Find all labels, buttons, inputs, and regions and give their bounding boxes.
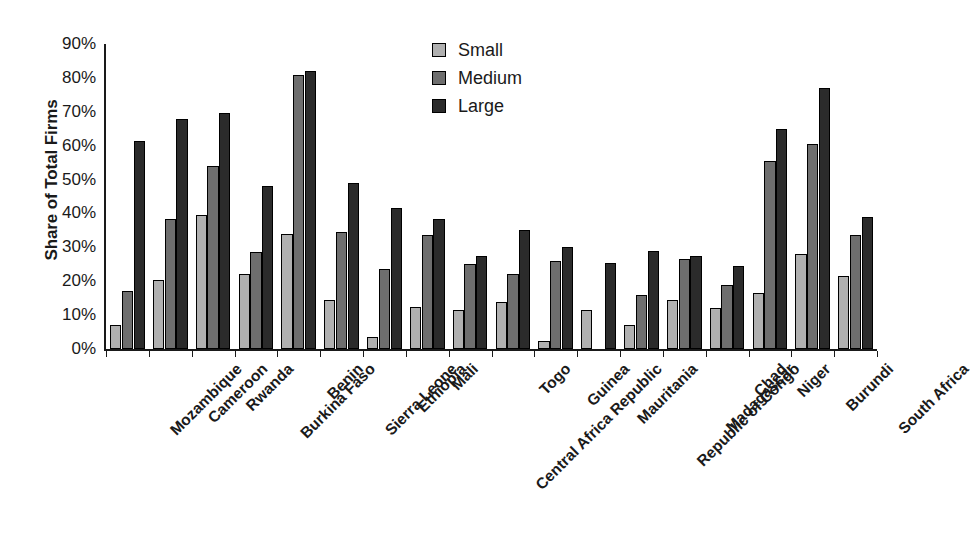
x-axis-tick-mark (834, 351, 835, 357)
x-axis-tick-mark (363, 351, 364, 357)
x-axis-tick-mark (577, 351, 578, 357)
legend-swatch-large-icon (432, 99, 446, 113)
x-axis-tick-mark (706, 351, 707, 357)
x-axis-tick-mark (877, 351, 878, 357)
legend-label: Small (458, 40, 503, 61)
x-axis-tick-mark (492, 351, 493, 357)
x-axis-tick-mark (235, 351, 236, 357)
legend-item-medium: Medium (432, 64, 522, 92)
x-axis-tick-mark (149, 351, 150, 357)
x-axis-tick-mark (534, 351, 535, 357)
x-axis-label-burundi: Burundi (842, 360, 897, 415)
x-axis-tick-mark (106, 351, 107, 357)
chart-legend: SmallMediumLarge (432, 36, 522, 120)
legend-swatch-medium-icon (432, 71, 446, 85)
x-axis-tick-mark (749, 351, 750, 357)
legend-item-large: Large (432, 92, 522, 120)
x-axis-tick-mark (320, 351, 321, 357)
legend-label: Large (458, 96, 504, 117)
legend-item-small: Small (432, 36, 522, 64)
x-axis-tick-mark (192, 351, 193, 357)
x-axis-tick-mark (277, 351, 278, 357)
x-axis-label-south-africa: South Africa (894, 360, 971, 437)
x-axis-tick-mark (663, 351, 664, 357)
x-axis-label-niger: Niger (794, 360, 835, 401)
legend-swatch-small-icon (432, 43, 446, 57)
x-axis-tick-mark (791, 351, 792, 357)
x-axis-label-togo: Togo (536, 360, 575, 399)
x-axis-tick-mark (620, 351, 621, 357)
x-axis-tick-mark (406, 351, 407, 357)
legend-label: Medium (458, 68, 522, 89)
x-axis-tick-mark (449, 351, 450, 357)
